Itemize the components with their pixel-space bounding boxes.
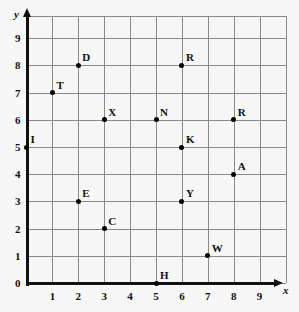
grid-line-horizontal [27, 256, 286, 257]
grid-line-horizontal [27, 174, 286, 175]
y-tick-label: 1 [7, 251, 21, 262]
data-point-label: I [31, 134, 35, 145]
coordinate-plane-figure: y x 123456789 0123456789 DTXIRNRKAEYCWH [0, 0, 299, 312]
grid-line-vertical [208, 16, 209, 283]
y-tick-label: 9 [7, 33, 21, 44]
grid-line-horizontal [27, 65, 286, 66]
x-axis-arrow [274, 279, 283, 287]
data-point-label: R [186, 52, 194, 63]
x-tick-label: 7 [201, 291, 215, 302]
x-tick-label: 8 [227, 291, 241, 302]
data-point-label: T [56, 80, 63, 91]
y-axis-arrow [23, 8, 31, 17]
grid-line-vertical [52, 16, 53, 283]
plot-background [0, 0, 299, 312]
grid-line-horizontal [27, 93, 286, 94]
x-axis-line [26, 282, 276, 285]
grid-line-horizontal [27, 201, 286, 202]
data-point-label: Y [186, 188, 194, 199]
grid-line-vertical [78, 16, 79, 283]
x-tick-label: 2 [71, 291, 85, 302]
y-tick-label: 7 [7, 88, 21, 99]
grid-line-vertical [182, 16, 183, 283]
x-tick-label: 9 [253, 291, 267, 302]
y-tick-label: 3 [7, 196, 21, 207]
y-tick-label: 5 [7, 142, 21, 153]
x-axis-label: x [283, 285, 289, 296]
grid-line-horizontal [27, 38, 286, 39]
y-tick-label: 8 [7, 60, 21, 71]
data-point-label: X [108, 107, 116, 118]
data-point [154, 117, 159, 122]
data-point-label: K [186, 134, 195, 145]
data-point [50, 90, 55, 95]
data-point-label: A [238, 161, 246, 172]
x-tick-label: 3 [97, 291, 111, 302]
data-point-label: E [82, 188, 89, 199]
y-tick-label: 4 [7, 169, 21, 180]
data-point [76, 199, 81, 204]
data-point [231, 172, 236, 177]
grid-line-vertical [130, 16, 131, 283]
data-point-label: D [82, 52, 90, 63]
data-point-label: N [160, 107, 168, 118]
y-axis-label: y [14, 9, 19, 20]
grid-line-vertical [260, 16, 261, 283]
data-point-label: C [108, 216, 116, 227]
data-point [154, 281, 159, 286]
grid-line-vertical [234, 16, 235, 283]
grid-line-vertical [104, 16, 105, 283]
y-tick-label: 2 [7, 224, 21, 235]
x-tick-label: 1 [45, 291, 59, 302]
grid-line-vertical [156, 16, 157, 283]
grid-line-vertical [286, 16, 287, 283]
grid-line-horizontal [27, 16, 286, 17]
data-point [24, 145, 29, 150]
data-point [76, 63, 81, 68]
data-point-label: R [238, 107, 246, 118]
data-point-label: H [160, 270, 169, 281]
grid-line-horizontal [27, 229, 286, 230]
data-point [179, 145, 184, 150]
y-axis-line [26, 16, 29, 286]
x-tick-label: 6 [175, 291, 189, 302]
x-tick-label: 4 [123, 291, 137, 302]
data-point-label: W [212, 243, 223, 254]
data-point [102, 226, 107, 231]
x-tick-label: 5 [149, 291, 163, 302]
y-tick-label: 0 [7, 278, 21, 289]
grid-line-horizontal [27, 147, 286, 148]
y-tick-label: 6 [7, 115, 21, 126]
